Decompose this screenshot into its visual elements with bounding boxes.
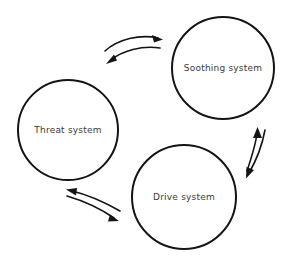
- drive-system-label: Drive system: [153, 192, 215, 202]
- diagram-canvas: Threat system Soothing system Drive syst…: [0, 0, 288, 258]
- node-drive-system: Drive system: [132, 145, 236, 249]
- arrow-soothing-to-threat: [106, 47, 160, 64]
- arrow-drive-to-soothing-path: [247, 133, 257, 171]
- node-soothing-system: Soothing system: [172, 17, 274, 119]
- arrow-threat-to-soothing-head: [152, 35, 163, 43]
- arrow-threat-to-soothing-path: [105, 37, 158, 51]
- arrow-drive-to-soothing-head: [253, 127, 262, 138]
- arrow-drive-to-threat: [66, 188, 120, 211]
- arrow-threat-to-drive: [67, 196, 119, 222]
- threat-system-label: Threat system: [33, 125, 101, 135]
- arrow-soothing-to-threat-path: [111, 47, 160, 60]
- arrow-soothing-to-drive-head: [246, 167, 254, 179]
- node-threat-system: Threat system: [18, 80, 118, 180]
- soothing-system-label: Soothing system: [184, 63, 262, 73]
- arrow-drive-to-threat-head: [66, 188, 77, 196]
- arrow-threat-to-drive-path: [67, 196, 114, 218]
- three-systems-cycle-diagram: Threat system Soothing system Drive syst…: [0, 0, 288, 258]
